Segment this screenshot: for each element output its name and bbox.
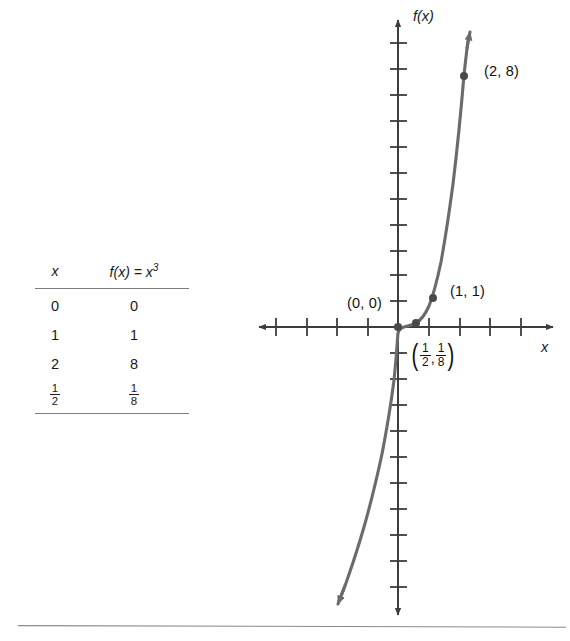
curve-path: [339, 41, 468, 601]
point-origin: [394, 323, 402, 331]
cubic-curve: [338, 32, 470, 604]
fraction-one-half: 1 2: [420, 342, 431, 368]
figure-root: x f(x) = x3 0 0 1 1 2 8 1 2: [0, 0, 570, 641]
close-paren: ): [448, 343, 455, 366]
cubic-function-graph: [0, 0, 570, 641]
fraction-denominator: 8: [436, 355, 447, 369]
y-axis-label: f(x): [413, 8, 434, 24]
point-label-one-one: (1, 1): [450, 283, 485, 299]
label-comma: ,: [431, 350, 435, 368]
point-label-two-eight: (2, 8): [484, 63, 519, 79]
y-axis: [390, 20, 407, 615]
fraction-denominator: 2: [420, 355, 431, 369]
open-paren: (: [412, 343, 419, 366]
point-label-half-eighth: ( 1 2 , 1 8 ): [410, 342, 456, 368]
bottom-rule: [18, 625, 566, 628]
x-axis-label: x: [541, 339, 548, 355]
point-label-origin: (0, 0): [347, 295, 382, 311]
fraction-numerator: 1: [420, 342, 431, 355]
point-half-eighth: [412, 319, 420, 327]
point-one-one: [429, 294, 437, 302]
fraction-numerator: 1: [436, 342, 447, 355]
fraction-one-eighth: 1 8: [436, 342, 447, 368]
point-two-eight: [460, 72, 468, 80]
curve-arrow-top: [467, 32, 470, 48]
curve-arrow-bottom: [338, 586, 345, 604]
